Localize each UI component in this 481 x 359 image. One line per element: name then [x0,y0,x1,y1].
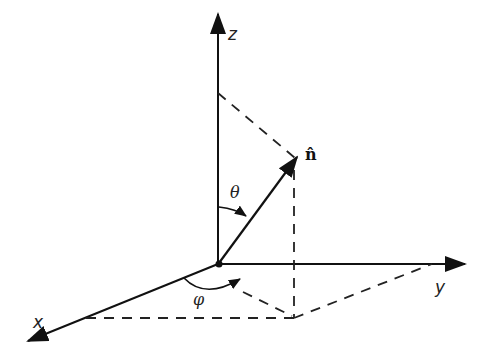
x-axis-label: x [32,312,44,332]
coordinate-diagram: z y x n̂ θ φ [0,0,481,359]
theta-label: θ [230,183,240,202]
y-axis-label: y [434,277,446,297]
vector-label: n̂ [305,145,317,164]
theta-arc [219,207,246,216]
phi-label: φ [193,290,205,309]
z-axis-label: z [227,24,238,44]
construction-lines [85,93,432,318]
x-axis [28,264,218,341]
phi-arc [184,278,240,289]
origin-point [216,261,223,268]
